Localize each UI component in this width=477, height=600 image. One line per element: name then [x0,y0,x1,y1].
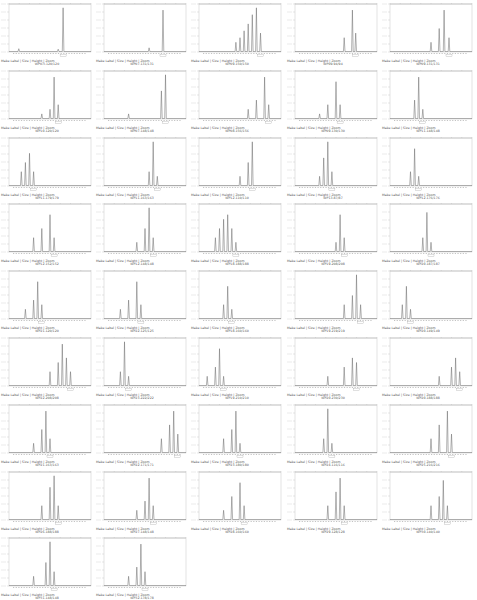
chromatogram-panel: Make Label | Size | Height | ZoomWP21.12… [0,267,93,333]
chromatogram-panel: Make Label | Size | Height | ZoomWP19.20… [286,200,379,266]
panel-title: WP10.120/120 [22,129,72,133]
chromatogram-plot [190,401,283,461]
chromatogram-plot [286,334,379,394]
panel-title: WP08.156/156 [212,129,262,133]
panel-caption: Make Label | Size | Height | ZoomWP09.15… [190,59,283,66]
chromatogram-plot [0,134,93,194]
chromatogram-plot [0,534,93,594]
panel-title: WP12.110/110 [212,196,262,200]
panel-title: WP18.160/160 [212,329,262,333]
panel-title: WP09.131/131 [403,62,453,66]
chromatogram-panel: Make Label | Size | Height | ZoomWP20.18… [381,334,474,400]
chromatogram-panel: Make Label | Size | Height | ZoomWP21.16… [0,401,93,467]
chromatogram-plot [286,67,379,127]
panel-caption: Make Label | Size | Height | ZoomWP20.18… [381,259,474,266]
panel-title: WP07I.120/120 [22,62,72,66]
chromatogram-panel: Make Label | Size | Height | ZoomWP31.14… [0,534,93,600]
panel-title: WP21.163/163 [22,463,72,467]
chromatogram-panel: Make Label | Size | Height | ZoomWP13.87… [286,134,379,200]
chromatogram-panel: Make Label | Size | Height | ZoomWP19.21… [190,334,283,400]
panel-caption: Make Label | Size | Height | ZoomWP31.14… [0,593,93,600]
panel-caption: Make Label | Size | Height | ZoomWP12.15… [0,259,93,266]
panel-caption: Make Label | Size | Height | ZoomWP21.12… [0,326,93,333]
chromatogram-panel: Make Label | Size | Height | ZoomWP07I.1… [0,0,93,66]
chromatogram-panel: Make Label | Size | Height | ZoomWP09.13… [286,67,379,133]
chromatogram-panel: Make Label | Size | Height | ZoomWP07.13… [95,0,188,66]
chromatogram-panel: Make Label | Size | Height | ZoomWP18.16… [190,267,283,333]
panel-caption: Make Label | Size | Height | ZoomWP22.12… [95,326,188,333]
chromatogram-panel: Make Label | Size | Height | ZoomWP23.22… [95,334,188,400]
panel-caption: Make Label | Size | Height | ZoomWP12.17… [381,193,474,200]
panel-title: WP11.179/179 [22,196,72,200]
chromatogram-panel: Make Label | Size | Height | ZoomWP09.94… [286,0,379,66]
panel-title: WP28.160/160 [212,530,262,534]
chromatogram-panel: Make Label | Size | Height | ZoomWP11.16… [95,134,188,200]
chromatogram-panel: Make Label | Size | Height | ZoomWP22.17… [95,401,188,467]
chromatogram-panel: Make Label | Size | Height | ZoomWP11.14… [381,67,474,133]
panel-title: WP07.131/131 [117,62,167,66]
panel-caption: Make Label | Size | Height | ZoomWP23.18… [190,460,283,467]
panel-title: WP18.188/188 [212,262,262,266]
panel-caption: Make Label | Size | Height | ZoomWP09.13… [381,59,474,66]
chromatogram-plot [286,267,379,327]
chromatogram-plot [286,0,379,60]
panel-title: WP13.87/87 [308,196,358,200]
chromatogram-panel: Make Label | Size | Height | ZoomWP20.14… [381,267,474,333]
chromatogram-plot [95,334,188,394]
panel-caption: Make Label | Size | Height | ZoomWP07I.1… [0,59,93,66]
panel-caption: Make Label | Size | Height | ZoomWP23.22… [95,393,188,400]
panel-title: WP20.230/230 [308,396,358,400]
panel-caption: Make Label | Size | Height | ZoomWP20.23… [286,393,379,400]
chromatogram-panel: Make Label | Size | Height | ZoomWP27.14… [95,468,188,534]
panel-caption: Make Label | Size | Height | ZoomWP11.17… [0,193,93,200]
chromatogram-plot [0,67,93,127]
panel-caption: Make Label | Size | Height | ZoomWP19.21… [286,326,379,333]
panel-title: WP20.188/188 [403,396,453,400]
chromatogram-panel: Make Label | Size | Height | ZoomWP12.15… [0,200,93,266]
panel-caption: Make Label | Size | Height | ZoomWP09.94… [286,59,379,66]
panel-title: WP25.216/216 [403,463,453,467]
panel-title: WP11.163/163 [117,196,167,200]
panel-caption: Make Label | Size | Height | ZoomWP10.12… [0,126,93,133]
chromatogram-panel: Make Label | Size | Height | ZoomWP30.14… [381,468,474,534]
panel-title: WP21.120/120 [22,329,72,333]
chromatogram-panel: Make Label | Size | Height | ZoomWP08.15… [190,67,283,133]
panel-caption: Make Label | Size | Height | ZoomWP07.14… [95,126,188,133]
chromatogram-plot [381,334,474,394]
panel-title: WP09.130/130 [308,129,358,133]
chromatogram-plot [0,0,93,60]
panel-title: WP22.208/208 [22,396,72,400]
chromatogram-panel: Make Label | Size | Height | ZoomWP20.23… [286,334,379,400]
panel-caption: Make Label | Size | Height | ZoomWP07.13… [95,59,188,66]
panel-title: WP20.187/187 [403,262,453,266]
panel-title: WP32.178/178 [117,596,167,600]
chromatogram-panel: Make Label | Size | Height | ZoomWP28.16… [190,468,283,534]
chromatogram-panel: Make Label | Size | Height | ZoomWP23.18… [190,401,283,467]
chromatogram-plot [190,67,283,127]
panel-caption: Make Label | Size | Height | ZoomWP12.11… [190,193,283,200]
chromatogram-panel: Make Label | Size | Height | ZoomWP29.12… [286,468,379,534]
panel-caption: Make Label | Size | Height | ZoomWP20.14… [381,326,474,333]
panel-caption: Make Label | Size | Height | ZoomWP27.14… [95,527,188,534]
chromatogram-plot [0,267,93,327]
panel-caption: Make Label | Size | Height | ZoomWP11.16… [95,193,188,200]
panel-caption: Make Label | Size | Height | ZoomWP30.14… [381,527,474,534]
chromatogram-plot [190,334,283,394]
chromatogram-plot [95,534,188,594]
chromatogram-panel: Make Label | Size | Height | ZoomWP07.14… [95,67,188,133]
chromatogram-panel: Make Label | Size | Height | ZoomWP12.14… [95,200,188,266]
chromatogram-plot [190,134,283,194]
panel-title: WP12.152/152 [22,262,72,266]
chromatogram-panel: Make Label | Size | Height | ZoomWP11.17… [0,134,93,200]
panel-title: WP11.148/148 [403,129,453,133]
panel-title: WP20.149/149 [403,329,453,333]
panel-title: WP22.125/125 [117,329,167,333]
panel-caption: Make Label | Size | Height | ZoomWP11.14… [381,126,474,133]
chromatogram-plot [286,468,379,528]
chromatogram-panel: Make Label | Size | Height | ZoomWP22.12… [95,267,188,333]
chromatogram-panel: Make Label | Size | Height | ZoomWP24.11… [286,401,379,467]
panel-title: WP12.176/176 [403,196,453,200]
chromatogram-plot [95,0,188,60]
chromatogram-plot [286,401,379,461]
chromatogram-plot [95,468,188,528]
